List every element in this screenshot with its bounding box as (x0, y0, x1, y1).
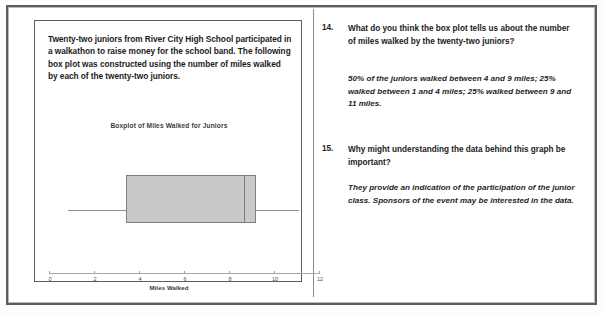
right-whisker (256, 210, 299, 211)
x-axis-label: Miles Walked (35, 284, 303, 291)
question-text-14: What do you think the box plot tells us … (348, 23, 576, 48)
left-whisker (68, 210, 126, 211)
prompt-box: Twenty-two juniors from River City High … (34, 20, 302, 282)
x-tick-label-8: 8 (222, 276, 238, 282)
x-tick-label-10: 10 (267, 276, 283, 282)
x-tick-label-4: 4 (132, 276, 148, 282)
right-column: 14. What do you think the box plot tells… (314, 9, 596, 305)
x-tick-0 (49, 271, 50, 274)
box-iqr (126, 175, 256, 223)
scanned-worksheet-page: Twenty-two juniors from River City High … (0, 0, 603, 317)
x-tick-label-6: 6 (177, 276, 193, 282)
x-tick-2 (94, 271, 95, 274)
answer-text-14: 50% of the juniors walked between 4 and … (348, 73, 576, 111)
question-number-14: 14. (322, 23, 344, 32)
x-tick-8 (229, 271, 230, 274)
question-number-15: 15. (322, 144, 344, 153)
boxplot-figure: 0 2 4 6 8 10 12 Miles Walked (35, 21, 303, 283)
x-tick-4 (139, 271, 140, 274)
x-tick-6 (184, 271, 185, 274)
x-tick-10 (274, 271, 275, 274)
answer-text-15: They provide an indication of the partic… (348, 182, 576, 207)
x-tick-label-0: 0 (42, 276, 58, 282)
question-text-15: Why might understanding the data behind … (348, 144, 576, 169)
left-column: Twenty-two juniors from River City High … (9, 9, 313, 305)
x-tick-label-2: 2 (87, 276, 103, 282)
median-line (244, 175, 245, 223)
